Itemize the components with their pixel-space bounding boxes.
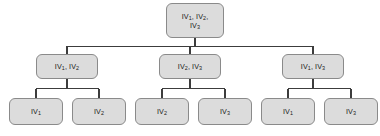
tree-node-label: IV2: [94, 107, 104, 116]
tree-node-label: IV1, IV3: [301, 62, 325, 71]
tree-node-m2[interactable]: IV2, IV3: [159, 54, 221, 79]
tree-node-m3[interactable]: IV1, IV3: [282, 54, 344, 79]
tree-node-m1[interactable]: IV1, IV2: [36, 54, 98, 79]
tree-node-label: IV1, IV2,IV3: [182, 12, 209, 30]
tree-node-l3[interactable]: IV2: [135, 98, 189, 125]
tree-node-l1[interactable]: IV1: [9, 98, 63, 125]
tree-node-label: IV2: [157, 107, 167, 116]
tree-node-l5[interactable]: IV1: [261, 98, 315, 125]
tree-node-label: IV2, IV3: [178, 62, 202, 71]
tree-node-root[interactable]: IV1, IV2,IV3: [166, 3, 224, 38]
tree-node-l4[interactable]: IV3: [198, 98, 252, 125]
tree-node-label: IV3: [220, 107, 230, 116]
tree-node-label: IV1, IV2: [55, 62, 79, 71]
tree-node-label: IV1: [283, 107, 293, 116]
tree-node-l6[interactable]: IV3: [324, 98, 378, 125]
diagram-canvas: IV1, IV2,IV3IV1, IV2IV2, IV3IV1, IV3IV1I…: [0, 0, 380, 136]
tree-node-label: IV3: [346, 107, 356, 116]
tree-node-label: IV1: [31, 107, 41, 116]
tree-node-l2[interactable]: IV2: [72, 98, 126, 125]
